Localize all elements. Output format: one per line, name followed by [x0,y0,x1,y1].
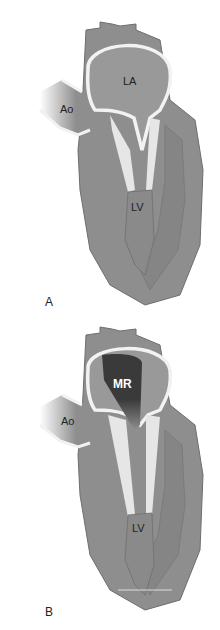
label-lv: LV [132,522,145,534]
panel-letter-a: A [45,295,53,309]
label-ao: Ao [61,415,74,427]
heart-diagram-mitral-regurgitation [0,315,220,630]
label-la: LA [123,75,136,87]
heart-diagram-normal [0,0,220,315]
panel-b: MR Ao LV B [0,315,220,630]
panel-letter-b: B [45,605,53,619]
panel-a: LA Ao LV A [0,0,220,315]
label-lv: LV [131,201,144,213]
label-ao: Ao [60,103,73,115]
label-mr: MR [113,377,132,391]
